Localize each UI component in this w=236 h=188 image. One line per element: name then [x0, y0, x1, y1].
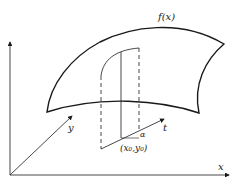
coordinate-axes — [10, 42, 229, 175]
surface-f — [47, 28, 224, 113]
point-label: (x₀,y₀) — [120, 143, 148, 153]
directional-derivative-diagram: f(x) y x t α (x₀,y₀) — [0, 0, 236, 188]
y-axis — [10, 116, 72, 175]
section-curve — [101, 48, 139, 76]
cross-section — [101, 48, 164, 149]
x-axis-label: x — [218, 161, 224, 172]
t-axis-label: t — [163, 122, 168, 133]
angle-label: α — [140, 130, 146, 139]
y-axis-label: y — [67, 122, 74, 133]
surface-label: f(x) — [157, 11, 175, 22]
